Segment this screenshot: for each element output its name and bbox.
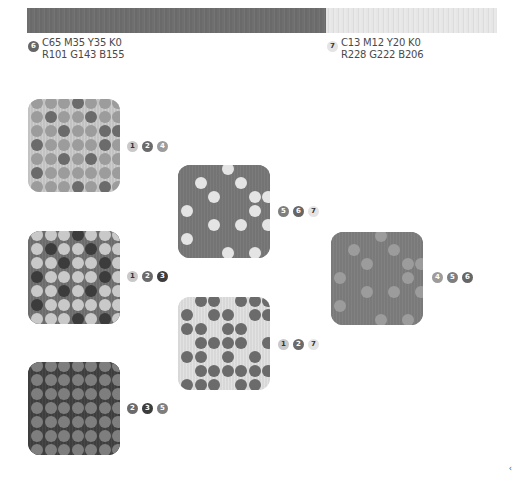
pattern-dot bbox=[45, 388, 57, 400]
pattern-dot bbox=[85, 313, 97, 324]
pattern-dot bbox=[334, 272, 346, 284]
pattern-dot bbox=[195, 379, 207, 390]
pattern-dot bbox=[235, 219, 247, 231]
pattern-dot bbox=[58, 430, 70, 442]
pattern-dot bbox=[195, 323, 207, 335]
pattern-dot bbox=[45, 444, 57, 455]
pattern-dot bbox=[112, 139, 120, 151]
pattern-dot bbox=[208, 219, 220, 231]
pattern-dot bbox=[361, 286, 373, 298]
pattern-dot bbox=[85, 243, 97, 255]
pattern-dot bbox=[85, 299, 97, 311]
color-badge-5: 5 bbox=[278, 206, 289, 217]
pattern-dot bbox=[99, 111, 111, 123]
color-badge-3: 3 bbox=[142, 403, 153, 414]
pattern-dot bbox=[112, 243, 120, 255]
color-badge-4: 4 bbox=[157, 141, 168, 152]
pattern-dot bbox=[195, 365, 207, 377]
pattern-dot bbox=[375, 232, 387, 242]
pattern-dot bbox=[99, 167, 111, 179]
pattern-dot bbox=[222, 337, 234, 349]
pattern-dot bbox=[99, 271, 111, 283]
pattern-dot bbox=[58, 181, 70, 192]
pattern-dot bbox=[58, 125, 70, 137]
pattern-dot bbox=[45, 153, 57, 165]
pattern-dot bbox=[112, 388, 120, 400]
pattern-dot bbox=[45, 139, 57, 151]
color-badge-2: 2 bbox=[142, 141, 153, 152]
pattern-dot bbox=[72, 153, 84, 165]
color-badge-4: 4 bbox=[432, 272, 443, 283]
pattern-dot bbox=[72, 99, 84, 109]
pattern-dot bbox=[31, 285, 43, 297]
pattern-dot bbox=[99, 388, 111, 400]
pattern-dot bbox=[181, 379, 193, 390]
pattern-dot bbox=[85, 388, 97, 400]
pattern-dot bbox=[402, 258, 414, 270]
pattern-dot bbox=[388, 286, 400, 298]
pattern-dot bbox=[85, 271, 97, 283]
pattern-dot bbox=[72, 313, 84, 324]
pattern-dot bbox=[99, 299, 111, 311]
pattern-swatch-4 bbox=[178, 165, 270, 258]
pattern-dot bbox=[31, 139, 43, 151]
pattern-swatch-5 bbox=[178, 297, 270, 390]
pattern-swatch-6 bbox=[331, 232, 423, 325]
pattern-dot bbox=[72, 374, 84, 386]
pattern-dot bbox=[85, 444, 97, 455]
pattern-dot bbox=[31, 388, 43, 400]
color-badge-2: 2 bbox=[142, 271, 153, 282]
pattern-dot bbox=[72, 299, 84, 311]
pattern-dot bbox=[415, 258, 423, 270]
pattern-dot bbox=[112, 444, 120, 455]
color-badge-5: 5 bbox=[157, 403, 168, 414]
rgb-value: R228 G222 B206 bbox=[341, 49, 423, 61]
pattern-dot bbox=[31, 167, 43, 179]
pattern-dot bbox=[181, 323, 193, 335]
pattern-dot bbox=[235, 323, 247, 335]
color-badge-3: 3 bbox=[157, 271, 168, 282]
pattern-dot bbox=[208, 379, 220, 390]
pattern-dot bbox=[99, 125, 111, 137]
color-bar-light bbox=[326, 8, 497, 33]
pattern-dot bbox=[58, 271, 70, 283]
pattern-dot bbox=[45, 362, 57, 372]
pattern-dot bbox=[45, 125, 57, 137]
pattern-dot bbox=[375, 314, 387, 325]
pattern-dot bbox=[72, 111, 84, 123]
pattern-dot bbox=[72, 271, 84, 283]
page-corner-mark: ‹ bbox=[509, 464, 512, 473]
color-bar-dark bbox=[27, 8, 326, 33]
pattern-dot bbox=[112, 99, 120, 109]
pattern-dot bbox=[31, 299, 43, 311]
pattern-dot bbox=[112, 271, 120, 283]
pattern-dot bbox=[85, 139, 97, 151]
pattern-dot bbox=[112, 125, 120, 137]
pattern-dot bbox=[222, 165, 234, 175]
pattern-dot bbox=[208, 337, 220, 349]
pattern-dot bbox=[72, 402, 84, 414]
color-badge-5: 5 bbox=[447, 272, 458, 283]
color-badge-7: 7 bbox=[308, 339, 319, 350]
color-badge-2: 2 bbox=[127, 403, 138, 414]
pattern-dot bbox=[99, 313, 111, 324]
pattern-dot bbox=[222, 365, 234, 377]
pattern-dot bbox=[112, 181, 120, 192]
pattern-dot bbox=[58, 388, 70, 400]
pattern-dot bbox=[99, 374, 111, 386]
pattern-dot bbox=[45, 243, 57, 255]
pattern-dot bbox=[249, 247, 261, 258]
pattern-dot bbox=[58, 243, 70, 255]
pattern-dot bbox=[112, 285, 120, 297]
color-badge-6: 6 bbox=[462, 272, 473, 283]
pattern-dot bbox=[249, 351, 261, 363]
pattern-dot bbox=[112, 299, 120, 311]
color-badge-6: 6 bbox=[293, 206, 304, 217]
pattern-dot bbox=[72, 388, 84, 400]
pattern-dot bbox=[31, 271, 43, 283]
pattern-dot bbox=[45, 313, 57, 324]
pattern-dot bbox=[45, 299, 57, 311]
pattern-dot bbox=[99, 139, 111, 151]
pattern-dot bbox=[31, 257, 43, 269]
pattern-dot bbox=[85, 125, 97, 137]
